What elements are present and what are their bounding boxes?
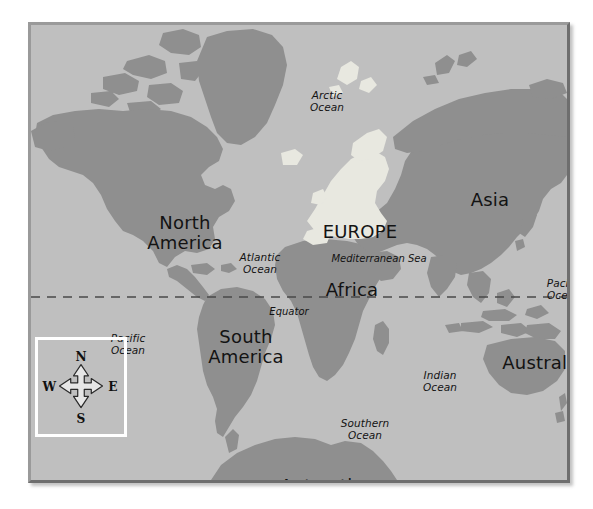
compass-label-east: E <box>108 380 117 394</box>
world-map-figure: North America South America EUROPE Afric… <box>28 22 570 483</box>
map-frame: North America South America EUROPE Afric… <box>28 22 570 483</box>
compass-rose-inset: N W E S <box>35 337 127 437</box>
compass-arrow-cross-icon <box>60 365 103 408</box>
compass-label-west: W <box>41 380 56 394</box>
compass-rose-svg: N W E S <box>38 340 124 434</box>
compass-label-north: N <box>75 350 86 364</box>
compass-label-south: S <box>77 412 86 426</box>
